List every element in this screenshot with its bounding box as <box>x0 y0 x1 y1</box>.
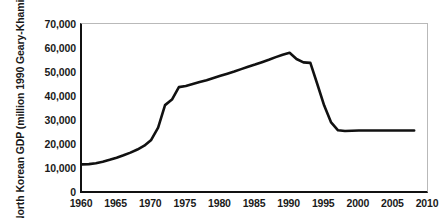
x-tick-label: 1960 <box>70 197 93 209</box>
x-tick-label: 1985 <box>243 197 266 209</box>
y-tick-label: 60,000 <box>44 42 76 54</box>
x-tick-label: 2005 <box>381 197 404 209</box>
x-tick-label: 1975 <box>174 197 197 209</box>
x-tick-label: 2000 <box>347 197 370 209</box>
chart-figure: North Korean GDP (million 1990 Geary-Kha… <box>0 0 448 218</box>
y-axis-label-container: North Korean GDP (million 1990 Geary-Kha… <box>0 0 40 205</box>
x-tick-label: 1965 <box>104 197 127 209</box>
y-tick-label: 40,000 <box>44 90 76 102</box>
x-tick-label: 2010 <box>416 197 439 209</box>
y-tick-label: 70,000 <box>44 18 76 30</box>
x-tick-label: 1980 <box>208 197 231 209</box>
x-tick-label: 1990 <box>277 197 300 209</box>
gdp-line-series <box>82 24 428 192</box>
series-polyline <box>82 53 414 165</box>
plot-area <box>80 23 428 193</box>
y-tick-label: 30,000 <box>44 114 76 126</box>
y-axis-label: North Korean GDP (million 1990 Geary-Kha… <box>14 0 27 218</box>
y-tick-label: 20,000 <box>44 138 76 150</box>
y-tick-label: 50,000 <box>44 66 76 78</box>
x-tick-label: 1995 <box>312 197 335 209</box>
y-tick-label: 10,000 <box>44 162 76 174</box>
x-tick-label: 1970 <box>139 197 162 209</box>
